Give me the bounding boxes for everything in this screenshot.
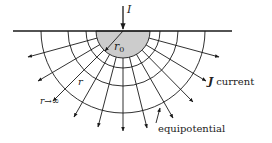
label-radius: r [78, 76, 84, 87]
equipotential-pointer [156, 108, 160, 123]
current-ray-arrow [28, 38, 97, 57]
label-equipotential: equipotential [158, 123, 225, 134]
electrode-diagram: I r0 r r→∞ Jcurrent equipotential [0, 0, 272, 143]
current-ray-arrow [98, 57, 116, 127]
current-ray-arrow [149, 38, 219, 57]
label-current-density: Jcurrent [206, 75, 254, 88]
label-current-in: I [126, 3, 132, 16]
label-infinity: r→∞ [40, 96, 59, 106]
